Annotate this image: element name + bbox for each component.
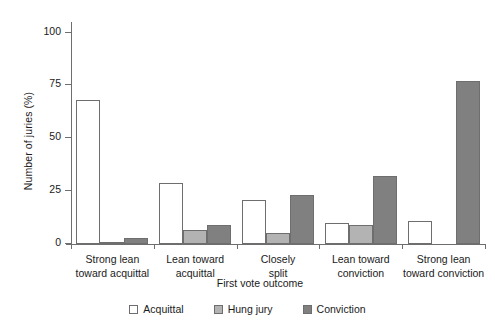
x-axis-tick xyxy=(71,244,72,249)
x-axis-tick xyxy=(485,244,486,249)
legend-item-hung-jury[interactable]: Hung jury xyxy=(214,303,273,315)
bar-conviction xyxy=(207,225,231,244)
y-axis-tick: 50 xyxy=(65,137,71,138)
x-axis-title: First vote outcome xyxy=(190,277,330,289)
bar-acquittal xyxy=(159,183,183,244)
bar-acquittal xyxy=(408,221,432,244)
legend-label: Hung jury xyxy=(228,303,273,315)
category-label-line: Strong lean xyxy=(389,253,495,267)
chart-legend: AcquittalHung juryConviction xyxy=(0,303,495,315)
legend-swatch-icon xyxy=(129,305,138,314)
y-axis-tick: 75 xyxy=(65,84,71,85)
y-axis-tick-label: 75 xyxy=(27,77,61,89)
x-axis-line xyxy=(66,244,485,245)
bar-acquittal xyxy=(325,223,349,244)
bar-acquittal xyxy=(242,200,266,244)
x-axis-tick xyxy=(402,244,403,249)
legend-item-acquittal[interactable]: Acquittal xyxy=(129,303,183,315)
x-axis-tick xyxy=(319,244,320,249)
bar-conviction xyxy=(456,81,480,244)
y-axis-line xyxy=(71,22,72,245)
y-axis-tick-label: 100 xyxy=(27,25,61,37)
y-axis-tick: 100 xyxy=(65,32,71,33)
legend-label: Conviction xyxy=(317,303,366,315)
legend-item-conviction[interactable]: Conviction xyxy=(303,303,366,315)
bar-conviction xyxy=(290,195,314,244)
y-axis-tick-label: 50 xyxy=(27,130,61,142)
legend-swatch-icon xyxy=(303,305,312,314)
bar-hung-jury xyxy=(183,230,207,244)
bar-conviction xyxy=(373,176,397,244)
x-axis-category-label: Strong leantoward conviction xyxy=(389,253,495,280)
y-axis-tick: 25 xyxy=(65,190,71,191)
bar-acquittal xyxy=(76,100,100,244)
legend-label: Acquittal xyxy=(143,303,183,315)
plot-area: 0255075100 Strong leantoward acquittalLe… xyxy=(71,22,485,244)
bar-conviction xyxy=(124,238,148,244)
x-axis-tick xyxy=(154,244,155,249)
bar-hung-jury xyxy=(349,225,373,244)
category-label-line: toward conviction xyxy=(389,267,495,281)
y-axis-tick-label: 0 xyxy=(27,236,61,248)
bar-hung-jury xyxy=(266,233,290,244)
bar-hung-jury xyxy=(100,242,124,244)
legend-swatch-icon xyxy=(214,305,223,314)
y-axis-tick-label: 25 xyxy=(27,183,61,195)
bar-chart-figure: Number of juries (%) 0255075100 Strong l… xyxy=(0,0,495,331)
x-axis-tick xyxy=(237,244,238,249)
